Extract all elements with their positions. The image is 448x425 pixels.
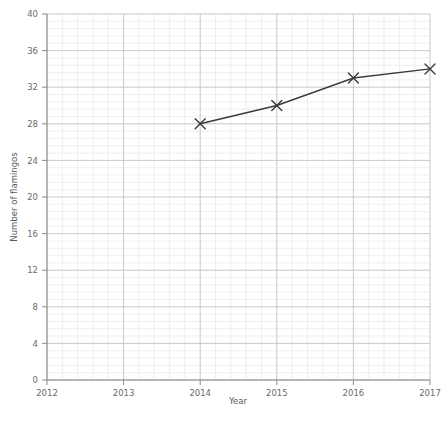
- chart-background: [0, 0, 448, 425]
- y-tick-label: 36: [27, 46, 38, 56]
- y-tick-label: 0: [33, 375, 38, 385]
- y-tick-label: 40: [27, 9, 38, 19]
- y-tick-label: 12: [27, 265, 38, 275]
- y-tick-label: 32: [27, 82, 38, 92]
- x-tick-label: 2015: [266, 388, 288, 398]
- x-tick-label: 2013: [113, 388, 135, 398]
- y-tick-label: 4: [33, 339, 38, 349]
- chart-container: 0481216202428323640 20122013201420152016…: [0, 0, 448, 425]
- y-axis-title: Number of flamingos: [9, 152, 19, 242]
- y-tick-label: 24: [27, 156, 38, 166]
- y-tick-label: 16: [27, 229, 38, 239]
- x-tick-label: 2017: [419, 388, 441, 398]
- y-tick-label: 20: [27, 192, 38, 202]
- x-axis-title: Year: [228, 396, 248, 406]
- x-tick-label: 2016: [343, 388, 365, 398]
- y-tick-label: 8: [33, 302, 38, 312]
- x-tick-label: 2014: [189, 388, 211, 398]
- flamingos-line-chart: 0481216202428323640 20122013201420152016…: [0, 0, 448, 425]
- y-tick-label: 28: [27, 119, 38, 129]
- x-tick-label: 2012: [36, 388, 58, 398]
